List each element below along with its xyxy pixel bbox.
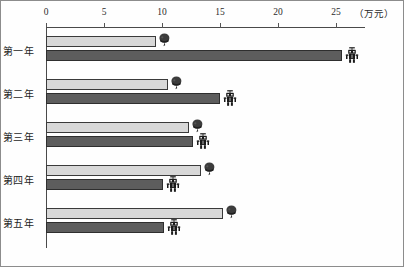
bar-group: 第五年 [1, 199, 404, 242]
category-label: 第三年 [3, 129, 34, 144]
axis-tick-label: 0 [44, 7, 49, 17]
bar-group: 第一年 [1, 27, 404, 70]
chart-figure: 0510152025 （万元） 第一年第二年第三年第四年第五年 [0, 0, 404, 267]
robot-icon [167, 219, 181, 235]
bar-light [46, 165, 201, 176]
bar-light [46, 208, 223, 219]
head-icon [158, 33, 171, 47]
axis-tick-label: 5 [102, 7, 107, 17]
category-label: 第一年 [3, 43, 34, 58]
bar-dark [46, 93, 220, 104]
bar-light [46, 122, 189, 133]
robot-icon [223, 90, 237, 106]
head-icon [191, 119, 204, 133]
bar-group: 第四年 [1, 156, 404, 199]
axis-tick-label: 10 [157, 7, 167, 17]
bar-dark [46, 179, 163, 190]
axis-tick-label: 20 [273, 7, 283, 17]
head-icon [225, 205, 238, 219]
bar-group: 第三年 [1, 113, 404, 156]
robot-icon [196, 133, 210, 149]
axis-tick-label: 15 [215, 7, 225, 17]
bar-dark [46, 50, 342, 61]
axis-tick-label: 25 [331, 7, 341, 17]
bar-light [46, 36, 156, 47]
category-label: 第五年 [3, 215, 34, 230]
category-label: 第二年 [3, 86, 34, 101]
robot-icon [166, 176, 180, 192]
axis-unit-label: （万元） [354, 6, 394, 20]
robot-icon [345, 47, 359, 63]
bar-light [46, 79, 168, 90]
category-label: 第四年 [3, 172, 34, 187]
head-icon [203, 162, 216, 176]
bar-dark [46, 222, 164, 233]
plot-area: 第一年第二年第三年第四年第五年 [1, 27, 403, 266]
bar-group: 第二年 [1, 70, 404, 113]
head-icon [170, 76, 183, 90]
bar-dark [46, 136, 193, 147]
